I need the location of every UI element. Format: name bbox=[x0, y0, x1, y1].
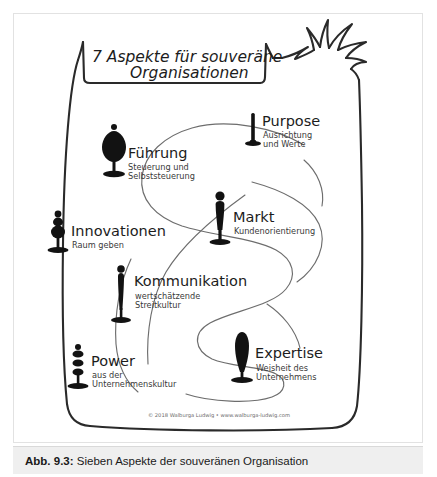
caption-title: Sieben Aspekte der souveränen Organisati… bbox=[74, 455, 309, 467]
aspect-label-markt: Markt bbox=[233, 209, 275, 225]
aspect-markt[interactable]: Markt Kundenorientierung bbox=[210, 191, 316, 245]
aspect-innovationen[interactable]: Innovationen Raum geben bbox=[48, 211, 166, 253]
stacked-figure-icon bbox=[68, 344, 89, 389]
pin-figure-icon bbox=[245, 113, 261, 146]
aspect-sub-expertise-2: Unternehmens bbox=[256, 372, 317, 382]
figure-caption: Abb. 9.3: Sieben Aspekte der souveränen … bbox=[13, 446, 423, 474]
aspect-sub-markt-1: Kundenorientierung bbox=[234, 226, 315, 236]
aspect-sub-power-2: Unternehmenskultur bbox=[92, 379, 177, 389]
aspect-fuehrung[interactable]: Führung Steuerung und Selbststeuerung bbox=[102, 124, 195, 181]
aspect-sub-purpose-2: und Werte bbox=[263, 139, 305, 149]
leaf-figure-icon bbox=[102, 124, 126, 177]
illustration-frame: Purpose Ausrichtung und Werte Führung St… bbox=[13, 13, 423, 443]
aspect-sub-fuehrung-2: Selbststeuerung bbox=[128, 171, 195, 181]
aspect-label-purpose: Purpose bbox=[262, 113, 320, 129]
slim-figure-icon bbox=[111, 265, 131, 323]
aspect-label-kommunikation: Kommunikation bbox=[134, 273, 247, 289]
aspect-label-fuehrung: Führung bbox=[128, 145, 187, 161]
cone-figure-icon bbox=[231, 332, 253, 383]
aspect-label-expertise: Expertise bbox=[255, 345, 323, 361]
aspect-kommunikation[interactable]: Kommunikation wertschätzende Streitkultu… bbox=[111, 265, 247, 323]
aspect-sub-kommunikation-2: Streitkultur bbox=[135, 300, 181, 310]
plant-flourish-icon bbox=[273, 20, 366, 80]
copyright-notice: © 2018 Walburga Ludwig • www.walburga-lu… bbox=[148, 412, 290, 419]
beaded-figure-icon bbox=[48, 211, 69, 253]
caption-number: Abb. 9.3: bbox=[25, 455, 74, 467]
aspect-sub-innovationen-1: Raum geben bbox=[72, 240, 124, 250]
aspect-label-innovationen: Innovationen bbox=[71, 223, 166, 239]
aspect-purpose[interactable]: Purpose Ausrichtung und Werte bbox=[245, 113, 320, 149]
aspect-power[interactable]: Power aus der Unternehmenskultur bbox=[68, 344, 177, 389]
aspect-label-power: Power bbox=[91, 353, 135, 369]
figure-title-line2: Organisationen bbox=[130, 64, 249, 82]
bust-figure-icon bbox=[210, 191, 231, 245]
figure-root: Purpose Ausrichtung und Werte Führung St… bbox=[0, 0, 437, 477]
aspect-expertise[interactable]: Expertise Weisheit des Unternehmens bbox=[231, 332, 323, 383]
illustration-canvas: Purpose Ausrichtung und Werte Führung St… bbox=[14, 14, 424, 444]
